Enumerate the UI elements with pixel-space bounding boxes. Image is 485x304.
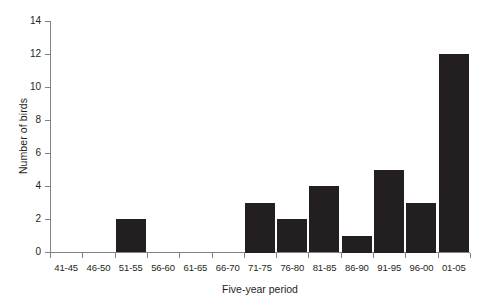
x-tick-label: 41-45: [50, 262, 82, 273]
bar: [439, 54, 469, 252]
x-tick-mark: [115, 253, 116, 258]
x-tick-mark: [405, 253, 406, 258]
y-tick-mark: [45, 87, 50, 88]
x-tick-label: 01-05: [438, 262, 470, 273]
y-tick-label: 4: [12, 181, 41, 191]
x-tick-label: 61-65: [179, 262, 211, 273]
x-tick-mark: [179, 253, 180, 258]
y-tick-mark: [45, 120, 50, 121]
y-tick-label: 12: [12, 49, 41, 59]
x-tick-mark: [470, 253, 471, 258]
x-tick-label: 96-00: [405, 262, 437, 273]
bar: [245, 203, 275, 253]
x-tick-label: 56-60: [147, 262, 179, 273]
y-tick-label: 2: [12, 214, 41, 224]
x-tick-label: 91-95: [373, 262, 405, 273]
bar: [277, 219, 307, 252]
bar-chart-figure: Number of birds 02468101214 41-4546-5051…: [0, 0, 485, 304]
y-tick-label: 14: [12, 16, 41, 26]
bar: [309, 186, 339, 252]
x-tick-mark: [373, 253, 374, 258]
y-tick-label: 6: [12, 148, 41, 158]
bar: [342, 236, 372, 253]
x-tick-mark: [341, 253, 342, 258]
x-tick-mark: [308, 253, 309, 258]
x-tick-label: 81-85: [308, 262, 340, 273]
y-tick-mark: [45, 54, 50, 55]
y-tick-label: 10: [12, 82, 41, 92]
x-tick-label: 46-50: [82, 262, 114, 273]
x-tick-label: 66-70: [212, 262, 244, 273]
x-tick-mark: [212, 253, 213, 258]
y-tick-mark: [45, 153, 50, 154]
x-tick-mark: [147, 253, 148, 258]
y-tick-label: 8: [12, 115, 41, 125]
y-tick-mark: [45, 219, 50, 220]
bar: [374, 170, 404, 253]
x-tick-mark: [50, 253, 51, 258]
bar: [116, 219, 146, 252]
y-axis-line: [50, 21, 51, 253]
x-tick-label: 76-80: [276, 262, 308, 273]
x-tick-mark: [82, 253, 83, 258]
y-tick-mark: [45, 21, 50, 22]
x-tick-label: 71-75: [244, 262, 276, 273]
x-axis-title: Five-year period: [50, 283, 470, 295]
x-tick-mark: [244, 253, 245, 258]
y-tick-mark: [45, 186, 50, 187]
y-tick-label: 0: [12, 247, 41, 257]
x-tick-mark: [276, 253, 277, 258]
bar: [406, 203, 436, 253]
x-tick-label: 51-55: [115, 262, 147, 273]
x-tick-label: 86-90: [341, 262, 373, 273]
x-tick-mark: [438, 253, 439, 258]
